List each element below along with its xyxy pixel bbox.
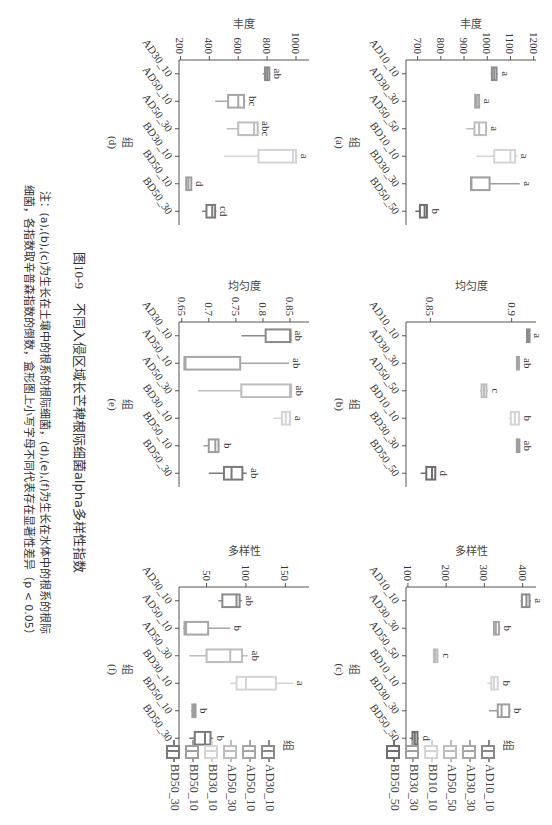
y-tick-label: 600 xyxy=(232,38,244,55)
significance-letter: a xyxy=(522,181,534,186)
legend-swatch-icon xyxy=(427,740,439,762)
box-BD30_30 xyxy=(489,704,510,717)
legend-item: BD50_30 xyxy=(165,740,184,811)
significance-letter: a xyxy=(500,71,512,76)
box-BD50_10 xyxy=(203,439,219,452)
significance-letter: c xyxy=(441,653,453,658)
significance-letter: a xyxy=(293,416,305,421)
box-BD50_30 xyxy=(209,467,247,480)
significance-letter: ab xyxy=(250,651,262,662)
panel-label: (c) xyxy=(333,663,346,676)
y-tick-label: 300 xyxy=(478,565,490,582)
significance-letter: abc xyxy=(260,121,272,136)
panel-label: (a) xyxy=(333,136,346,149)
box-AD10_10 xyxy=(521,594,531,607)
box-AD30_10 xyxy=(218,594,242,607)
box-BD50_50 xyxy=(421,467,436,480)
x-axis-label: 组 xyxy=(347,399,361,410)
panel-label: (b) xyxy=(333,398,346,411)
legend-label: BD50_50 xyxy=(387,764,402,811)
panel-d: 2004006008001000丰度abAD30_10bcAD50_10abcA… xyxy=(103,18,317,233)
y-tick-label: 1200 xyxy=(528,32,540,55)
x-axis-label: 组 xyxy=(120,399,134,410)
y-tick-label: 50 xyxy=(201,570,213,582)
significance-letter: c xyxy=(490,388,502,393)
figure-note: 注：(a),(b),(c)为生长在土壤中的根系的根际细菌，(d),(e),(f)… xyxy=(20,0,52,825)
box-AD30_10 xyxy=(241,329,291,342)
y-axis-label: 丰度 xyxy=(460,17,482,31)
legend-swatch-icon xyxy=(226,740,238,762)
legend-swatch-icon xyxy=(389,740,401,762)
significance-letter: d xyxy=(438,471,450,477)
box-AD50_50 xyxy=(466,122,487,135)
legend-water: 组 AD30_10AD50_10AD50_30BD30_10BD50_10BD5… xyxy=(165,740,297,811)
box-BD30_10 xyxy=(224,150,298,163)
legend-swatch-icon xyxy=(207,740,219,762)
panel-a: 700800900100011001200丰度aAD10_10aAD30_30a… xyxy=(330,18,544,233)
y-tick-label: 0.85 xyxy=(424,297,436,317)
panel-label: (f) xyxy=(106,664,119,675)
legend-swatch-icon xyxy=(169,740,181,762)
legend-label: AD50_30 xyxy=(224,764,239,811)
box-BD50_50 xyxy=(415,205,428,218)
legend-item: AD30_30 xyxy=(461,740,480,811)
legend-label: BD10_10 xyxy=(425,764,440,811)
box-AD50_30 xyxy=(198,384,292,397)
box-BD10_10 xyxy=(487,677,498,690)
significance-letter: a xyxy=(299,154,311,159)
significance-letter: a xyxy=(533,598,545,603)
box-plot-f: 50100150多样性abAD30_10bAD50_10abAD50_30aBD… xyxy=(107,545,317,760)
y-tick-label: 700 xyxy=(412,38,424,55)
legend-swatch-icon xyxy=(484,740,496,762)
box-AD50_10 xyxy=(215,95,245,108)
legend-item: BD30_30 xyxy=(404,740,423,811)
box-plot-e: 0.650.70.750.80.85均匀度abAD30_10abAD50_10a… xyxy=(107,280,317,495)
box-plot-b: 0.850.9均匀度aAD10_10abAD30_30cAD50_50bBD10… xyxy=(334,280,544,495)
panel-b: 0.850.9均匀度aAD10_10abAD30_30cAD50_50bBD10… xyxy=(330,280,544,495)
legend-item: AD10_10 xyxy=(480,740,499,811)
figure-note-line2: 细菌，各指数取辛普森指数的倒数，盒形图上小写字母不同代表存在显著性差异（p < … xyxy=(20,0,36,825)
legend-item: BD50_10 xyxy=(184,740,203,811)
significance-letter: a xyxy=(482,99,494,104)
panel-label: (d) xyxy=(106,136,119,149)
box-AD30_10 xyxy=(263,67,271,80)
legend-label: AD50_10 xyxy=(243,764,258,811)
panel-f: 50100150多样性abAD30_10bAD50_10abAD50_30aBD… xyxy=(103,545,317,760)
legend-swatch-icon xyxy=(245,740,257,762)
legend-item: BD50_50 xyxy=(385,740,404,811)
significance-letter: b xyxy=(232,626,244,632)
legend-swatch-icon xyxy=(408,740,420,762)
box-BD10_10 xyxy=(509,412,520,425)
y-tick-label: 100 xyxy=(402,565,414,582)
legend-swatch-icon xyxy=(446,740,458,762)
legend-title: 组 xyxy=(501,740,517,811)
significance-letter: a xyxy=(532,333,544,338)
legend-label: BD30_10 xyxy=(205,764,220,811)
legend-label: BD50_10 xyxy=(186,764,201,811)
significance-letter: b xyxy=(522,416,534,422)
y-tick-label: 1000 xyxy=(481,32,493,55)
y-tick-label: 200 xyxy=(174,38,186,55)
significance-letter: a xyxy=(295,681,307,686)
y-tick-label: 400 xyxy=(203,38,215,55)
figure-page: 700800900100011001200丰度aAD10_10aAD30_30a… xyxy=(0,0,552,825)
panel-c: 100200300400多样性aAD10_10bAD30_30cAD50_50b… xyxy=(330,545,544,760)
y-axis-label: 均匀度 xyxy=(228,279,261,293)
significance-letter: b xyxy=(222,443,234,449)
significance-letter: b xyxy=(502,626,514,632)
panel-e: 0.650.70.750.80.85均匀度abAD30_10abAD50_10a… xyxy=(103,280,317,495)
legend-label: BD30_30 xyxy=(406,764,421,811)
y-axis-label: 丰度 xyxy=(233,17,255,31)
legend-item: BD30_10 xyxy=(203,740,222,811)
significance-letter: bc xyxy=(247,96,259,107)
box-plot-c: 100200300400多样性aAD10_10bAD30_30cAD50_50b… xyxy=(334,545,544,760)
y-tick-label: 200 xyxy=(440,565,452,582)
box-plot-d: 2004006008001000丰度abAD30_10bcAD50_10abcA… xyxy=(107,18,317,233)
box-AD50_10 xyxy=(183,357,289,370)
legend-item: AD50_30 xyxy=(222,740,241,811)
box-AD10_10 xyxy=(526,329,530,342)
box-BD30_30 xyxy=(517,439,520,452)
box-BD30_10 xyxy=(274,412,291,425)
box-AD10_10 xyxy=(491,67,498,80)
significance-letter: ab xyxy=(522,358,534,369)
